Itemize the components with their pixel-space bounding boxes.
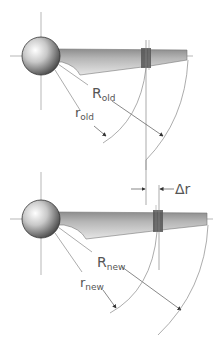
arc-R-new xyxy=(158,225,208,335)
diagram-old: Rold rold xyxy=(10,12,193,170)
blade xyxy=(58,49,187,75)
radius-R-arrow xyxy=(112,101,163,136)
blade-radius-diagram: Rold rold Δr Rnew rnew xyxy=(0,0,221,345)
diagram-new: Δr Rnew rnew xyxy=(10,160,213,335)
arc-r-new xyxy=(110,232,157,313)
label-r-new: rnew xyxy=(80,275,104,292)
label-R-old: Rold xyxy=(92,85,115,103)
radius-r-arrow xyxy=(94,126,106,136)
hub-ball xyxy=(22,200,60,238)
label-R-new: Rnew xyxy=(97,254,125,272)
radius-r-leader xyxy=(55,233,82,272)
radius-R-arrow xyxy=(122,267,181,310)
blade-section-band xyxy=(153,210,163,232)
radius-r-leader xyxy=(55,70,80,110)
blade xyxy=(58,212,207,239)
arc-R-old xyxy=(146,60,188,160)
label-delta-r: Δr xyxy=(175,181,191,197)
label-r-old: rold xyxy=(75,105,94,122)
radius-r-arrow xyxy=(103,290,116,308)
hub-ball xyxy=(22,37,60,75)
arc-r-old xyxy=(103,68,146,143)
